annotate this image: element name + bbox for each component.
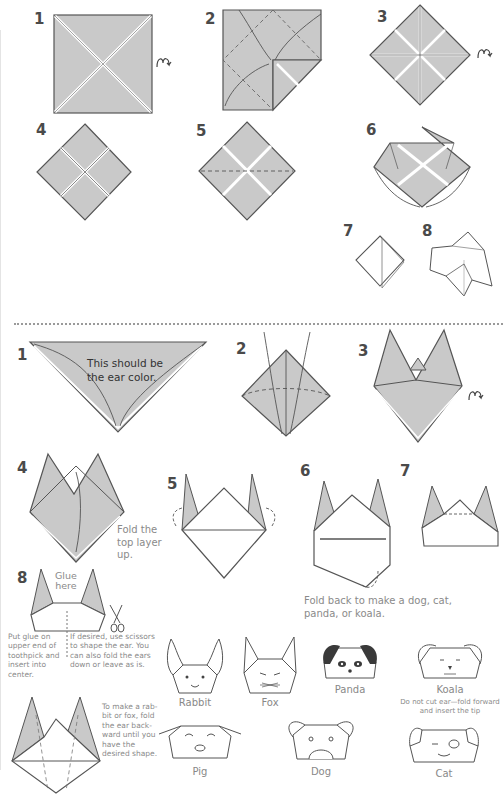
animal-label: Rabbit (163, 697, 227, 708)
step5-diagram (170, 470, 280, 580)
rabbit-face (163, 635, 227, 695)
step-number: 8 (17, 571, 27, 586)
page-edge (0, 30, 1, 770)
rabbit-fox-fold-diagram (10, 695, 105, 793)
fox-face (242, 633, 298, 695)
turn-over-icon (155, 55, 173, 69)
step7-diagram (420, 482, 500, 550)
scissors-caption: If desired, use scissors to shape the ea… (70, 632, 155, 670)
step-number: 4 (17, 461, 27, 476)
pig-face (155, 720, 245, 762)
animal-label: Panda (320, 684, 380, 695)
step4-diamond-diagram (35, 122, 133, 222)
ear-color-note: This should be the ear color. (87, 357, 163, 384)
step6-diagram (370, 125, 475, 210)
scissors-icon (108, 603, 126, 633)
animal-label: Koala (412, 684, 488, 695)
step3-diamond-diagram (368, 3, 472, 107)
step3-diagram (372, 324, 464, 446)
step-number: 7 (343, 224, 353, 239)
step-number: 7 (400, 464, 410, 479)
fold-top-layer-caption: Fold the top layer up. (117, 524, 162, 562)
rabbit-fox-caption: To make a rab- bit or fox, fold the ear … (102, 702, 157, 758)
turn-over-icon (476, 46, 494, 60)
step8-cootie-catcher (428, 230, 500, 298)
step2-diagram (240, 328, 332, 438)
step4-diagram (28, 452, 124, 564)
step-number: 2 (205, 12, 215, 27)
glue-here-label: Glue here (55, 571, 77, 592)
step7-folded-square (354, 234, 406, 290)
step2-blintz-diagram (221, 8, 326, 113)
turn-over-icon (467, 388, 485, 402)
panda-face (320, 642, 380, 682)
step1-square-diagram (52, 13, 157, 116)
cat-face (406, 722, 482, 764)
step-number: 1 (17, 348, 27, 363)
glue-caption: Put glue on upper end of toothpick and i… (8, 632, 60, 679)
koala-face (412, 642, 488, 682)
animal-label: Dog (291, 766, 351, 777)
step1-triangle-diagram (28, 340, 208, 436)
step-number: 3 (358, 344, 368, 359)
animal-label: Fox (242, 697, 298, 708)
fold-back-caption: Fold back to make a dog, cat, panda, or … (304, 595, 452, 620)
animal-label: Cat (414, 768, 474, 779)
step5-diamond-diagram (197, 120, 297, 224)
step6-diagram (312, 475, 392, 590)
step-number: 6 (300, 464, 310, 479)
animal-label: Pig (170, 766, 230, 777)
step-number: 1 (34, 12, 44, 27)
koala-note: Do not cut ear—fold forward and insert t… (398, 698, 502, 716)
dog-face (283, 717, 359, 763)
